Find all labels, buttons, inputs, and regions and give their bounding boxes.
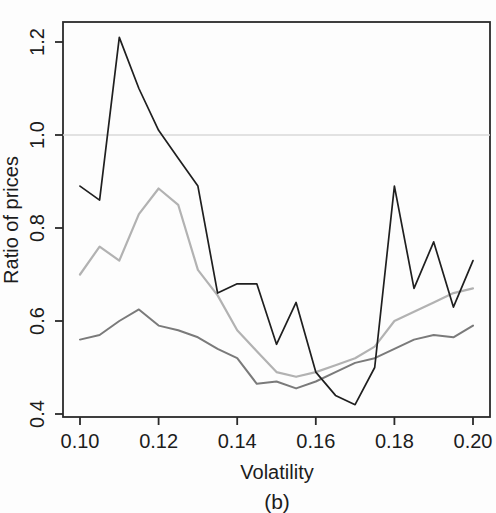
series-middle-light-gray-line bbox=[80, 189, 473, 377]
x-axis-title: Volatility bbox=[240, 461, 313, 483]
y-tick-label: 0.6 bbox=[26, 307, 48, 335]
plot-border bbox=[63, 22, 490, 417]
data-series-lines bbox=[80, 37, 473, 404]
x-tick-label: 0.18 bbox=[375, 430, 414, 452]
x-tick-label: 0.10 bbox=[61, 430, 100, 452]
figure-panel-b: 0.100.120.140.160.180.20 0.40.60.81.01.2… bbox=[0, 0, 496, 513]
series-upper-volatile-line bbox=[80, 37, 473, 404]
x-axis-ticks bbox=[80, 417, 473, 425]
y-axis-title: Ratio of prices bbox=[0, 156, 22, 284]
x-tick-label: 0.16 bbox=[296, 430, 335, 452]
x-tick-label: 0.14 bbox=[218, 430, 257, 452]
y-axis-ticks bbox=[55, 42, 63, 414]
y-tick-label: 0.4 bbox=[26, 400, 48, 428]
x-tick-label: 0.12 bbox=[139, 430, 178, 452]
series-lower-dark-gray-line bbox=[80, 309, 473, 388]
ratio-of-prices-chart: 0.100.120.140.160.180.20 0.40.60.81.01.2… bbox=[0, 0, 496, 513]
y-axis-tick-labels: 0.40.60.81.01.2 bbox=[26, 28, 48, 428]
x-axis-tick-labels: 0.100.120.140.160.180.20 bbox=[61, 430, 493, 452]
y-tick-label: 0.8 bbox=[26, 214, 48, 242]
y-tick-label: 1.0 bbox=[26, 121, 48, 149]
x-tick-label: 0.20 bbox=[454, 430, 493, 452]
subfigure-caption: (b) bbox=[264, 490, 290, 513]
y-tick-label: 1.2 bbox=[26, 28, 48, 56]
